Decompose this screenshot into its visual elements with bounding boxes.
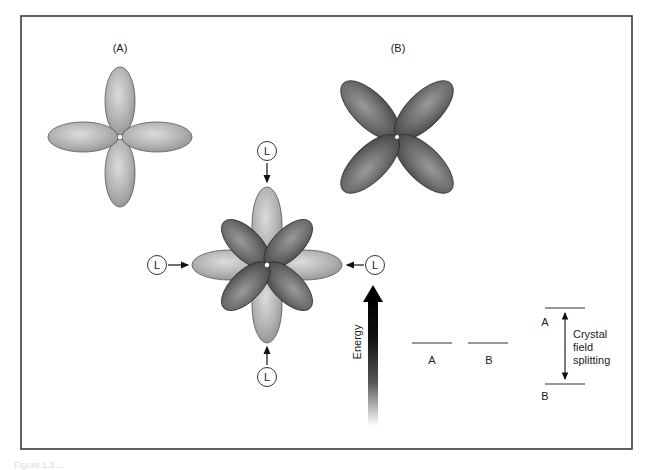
- orbital-a-axial: [48, 67, 192, 207]
- energy-arrow-shaft: [368, 300, 378, 426]
- nucleus-dot: [265, 263, 269, 267]
- ligand-right: L: [347, 256, 385, 275]
- lobe-left: [48, 122, 118, 152]
- splitting-label-line1: Crystal: [573, 328, 607, 340]
- energy-axis: Energy: [351, 285, 383, 426]
- ligand-bottom: L: [258, 347, 277, 387]
- ligand-label: L: [154, 259, 160, 271]
- ligand-left: L: [148, 256, 189, 275]
- panel-b-label: (B): [391, 42, 406, 54]
- splitting-label-line2: field: [573, 341, 593, 353]
- figure-caption: Figure 1.3 ...: [14, 460, 65, 470]
- orbital-combined: [192, 187, 342, 343]
- lobe-right: [122, 122, 192, 152]
- lobe-down: [105, 139, 135, 207]
- ligand-label: L: [264, 371, 270, 383]
- level-b-label: B: [485, 354, 492, 366]
- figure-canvas: (A) (B) L L L L: [0, 0, 652, 470]
- orbital-b-diagonal: [331, 71, 463, 203]
- energy-label: Energy: [351, 324, 363, 359]
- levels-split: A B Crystal field splitting: [541, 308, 610, 402]
- ligand-label: L: [372, 259, 378, 271]
- nucleus-dot: [395, 135, 399, 139]
- ligand-label: L: [264, 145, 270, 157]
- lobe-up: [105, 67, 135, 135]
- panel-a-label: (A): [113, 42, 128, 54]
- level-a-label: A: [428, 354, 436, 366]
- lower-level-label: B: [541, 390, 548, 402]
- levels-unsplit: A B: [412, 343, 508, 366]
- ligand-top: L: [258, 142, 277, 183]
- splitting-label-line3: splitting: [573, 354, 610, 366]
- upper-level-label: A: [541, 316, 549, 328]
- energy-arrow-head-icon: [363, 285, 383, 302]
- nucleus-dot: [118, 135, 122, 139]
